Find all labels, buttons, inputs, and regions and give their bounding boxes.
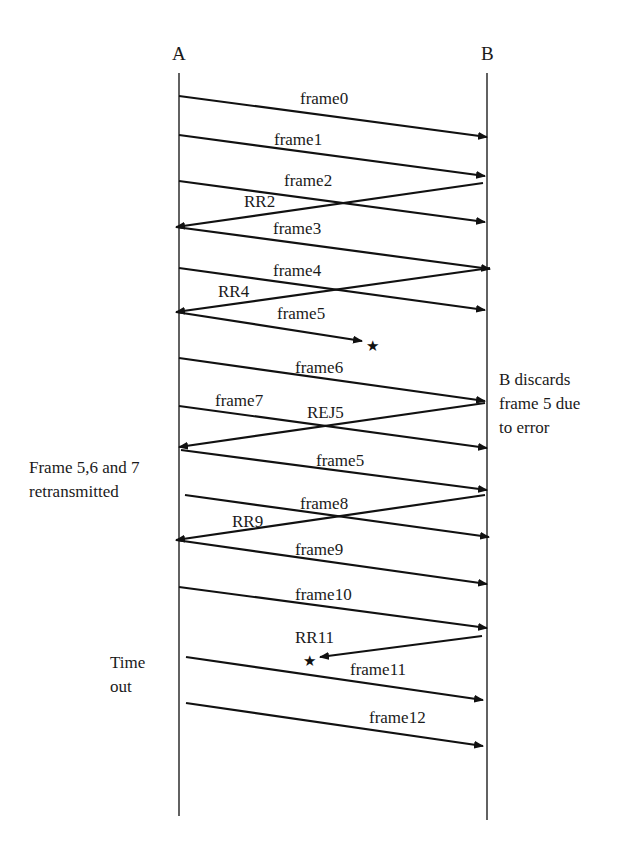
message-label: RR9 xyxy=(232,512,263,531)
message-label: frame5 xyxy=(316,451,364,470)
lost-frame-star-icon: ★ xyxy=(303,653,316,669)
message-frame5: frame5★ xyxy=(176,304,379,354)
actor-b-label: B xyxy=(481,43,494,64)
message-frame9: frame9 xyxy=(176,540,487,584)
message-label: frame11 xyxy=(350,660,406,679)
message-frame11: frame11 xyxy=(186,657,483,700)
annotation-retransmitted: Frame 5,6 and 7retransmitted xyxy=(29,458,140,501)
sequence-diagram: A B frame0frame1frame2RR2frame3frame4RR4… xyxy=(0,0,641,857)
message-frame2: frame2 xyxy=(179,171,485,222)
message-label: REJ5 xyxy=(307,403,344,422)
message-frame12: frame12 xyxy=(186,703,483,746)
actor-a-label: A xyxy=(172,43,186,64)
message-label: frame0 xyxy=(300,89,348,108)
diagram-canvas: A B frame0frame1frame2RR2frame3frame4RR4… xyxy=(0,0,641,857)
message-label: frame2 xyxy=(284,171,332,190)
message-frame10: frame10 xyxy=(179,585,487,628)
annotations-group: B discardsframe 5 dueto errorFrame 5,6 a… xyxy=(29,370,580,696)
message-label: frame9 xyxy=(295,540,343,559)
message-label: frame5 xyxy=(277,304,325,323)
message-frame3: frame3 xyxy=(176,219,490,269)
message-label: frame3 xyxy=(273,219,321,238)
lost-frame-star-icon: ★ xyxy=(366,338,379,354)
message-arrow xyxy=(320,636,482,657)
annotation-line: Time xyxy=(110,653,145,672)
message-label: RR11 xyxy=(295,628,334,647)
annotation-line: to error xyxy=(499,418,550,437)
messages-group: frame0frame1frame2RR2frame3frame4RR4fram… xyxy=(176,89,490,746)
message-label: RR2 xyxy=(244,192,275,211)
message-arrow xyxy=(179,135,485,176)
annotation-b-discards: B discardsframe 5 dueto error xyxy=(499,370,580,437)
message-label: frame4 xyxy=(273,261,322,280)
message-label: frame7 xyxy=(215,391,264,410)
message-arrow xyxy=(176,227,490,269)
message-label: frame8 xyxy=(300,494,348,513)
annotation-timeout: Timeout xyxy=(110,653,145,696)
annotation-line: Frame 5,6 and 7 xyxy=(29,458,140,477)
message-frame0: frame0 xyxy=(179,89,487,137)
message-label: frame12 xyxy=(369,708,426,727)
message-frame5: frame5 xyxy=(181,450,487,490)
message-label: RR4 xyxy=(218,282,250,301)
annotation-line: frame 5 due xyxy=(499,394,580,413)
annotation-line: B discards xyxy=(499,370,570,389)
message-arrow xyxy=(186,657,483,700)
message-label: frame1 xyxy=(274,130,322,149)
message-label: frame6 xyxy=(295,358,343,377)
message-label: frame10 xyxy=(295,585,352,604)
message-arrow xyxy=(186,703,483,746)
message-frame1: frame1 xyxy=(179,130,485,176)
message-arrow xyxy=(176,312,362,341)
annotation-line: out xyxy=(110,677,132,696)
annotation-line: retransmitted xyxy=(29,482,119,501)
